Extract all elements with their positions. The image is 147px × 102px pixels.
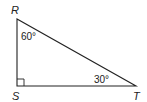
angle-label-t: 30° — [94, 74, 109, 85]
vertex-label-r: R — [11, 4, 19, 16]
vertex-label-t: T — [133, 90, 141, 102]
right-angle-marker — [17, 79, 24, 86]
vertex-label-s: S — [12, 90, 20, 102]
triangle-diagram: R S T 60° 30° — [0, 0, 147, 102]
angle-label-r: 60° — [21, 31, 36, 42]
triangle-rst — [17, 19, 136, 86]
